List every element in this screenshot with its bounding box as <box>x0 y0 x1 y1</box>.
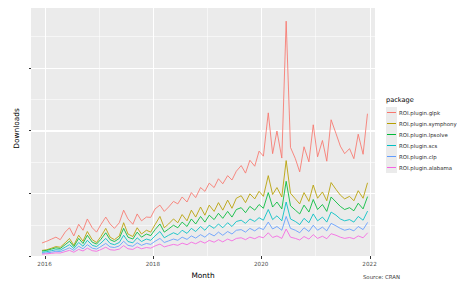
legend-key-line-icon <box>386 140 397 151</box>
y-axis-title: Downloads <box>12 69 21 189</box>
x-tick-label: 2018 <box>146 261 160 267</box>
x-tick-label: 2016 <box>37 261 51 267</box>
legend: package ROI.plugin.glpkROI.plugin.sympho… <box>386 96 460 173</box>
legend-item-label: ROI.plugin.glpk <box>399 110 440 116</box>
x-tick-mark <box>261 256 262 259</box>
x-tick-label: 2020 <box>254 261 268 267</box>
legend-item[interactable]: ROI.plugin.alabama <box>386 162 460 173</box>
gridline-major-horizontal <box>31 256 375 257</box>
legend-item-label: ROI.plugin.clp <box>399 154 437 160</box>
series-layer <box>31 8 375 256</box>
x-tick-label: 2022 <box>362 261 376 267</box>
legend-item-label: ROI.plugin.symphony <box>399 121 457 127</box>
x-tick-mark <box>153 256 154 259</box>
legend-key-line-icon <box>386 129 397 140</box>
legend-items: ROI.plugin.glpkROI.plugin.symphonyROI.pl… <box>386 107 460 173</box>
legend-key-line-icon <box>386 107 397 118</box>
legend-item[interactable]: ROI.plugin.clp <box>386 151 460 162</box>
y-tick-mark <box>29 130 32 131</box>
y-tick-mark <box>29 193 32 194</box>
chart-caption: Source: CRAN <box>363 274 400 280</box>
x-tick-mark <box>370 256 371 259</box>
legend-item-label: ROI.plugin.scs <box>399 143 437 149</box>
legend-item-label: ROI.plugin.alabama <box>399 165 452 171</box>
x-tick-mark <box>45 256 46 259</box>
legend-item[interactable]: ROI.plugin.glpk <box>386 107 460 118</box>
y-tick-mark <box>29 256 32 257</box>
series-line <box>42 202 367 252</box>
series-line <box>42 21 367 243</box>
series-line <box>42 229 367 254</box>
legend-item[interactable]: ROI.plugin.scs <box>386 140 460 151</box>
legend-title: package <box>386 96 460 104</box>
legend-item[interactable]: ROI.plugin.symphony <box>386 118 460 129</box>
legend-item[interactable]: ROI.plugin.lpsolve <box>386 129 460 140</box>
x-axis-title: Month <box>0 271 406 280</box>
legend-key-line-icon <box>386 118 397 129</box>
legend-item-label: ROI.plugin.lpsolve <box>399 132 448 138</box>
downloads-line-chart: 0200040006000 2016201820202022 Downloads… <box>0 0 460 289</box>
legend-key-line-icon <box>386 162 397 173</box>
plot-panel <box>31 8 375 256</box>
legend-key-line-icon <box>386 151 397 162</box>
y-tick-mark <box>29 68 32 69</box>
